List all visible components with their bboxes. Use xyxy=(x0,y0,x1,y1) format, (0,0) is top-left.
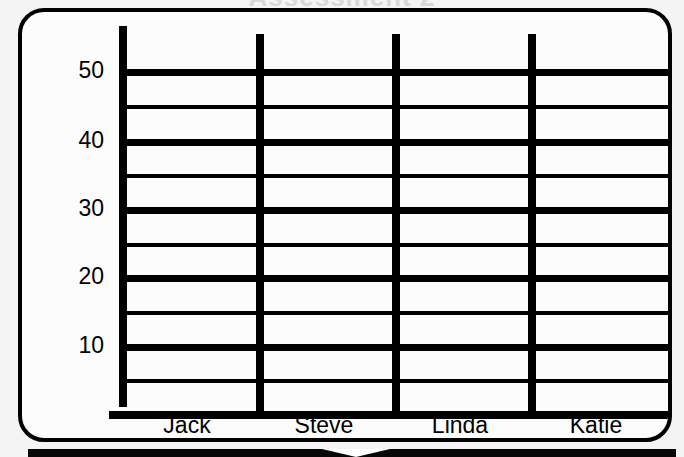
y-tick-label-10: 10 xyxy=(52,334,104,357)
y-tick-label-50: 50 xyxy=(52,59,104,82)
gridline-minor-25 xyxy=(119,243,672,247)
gridline-minor-5 xyxy=(119,379,672,383)
gridline-major-10 xyxy=(119,344,672,351)
chart-panel: 50 40 30 20 10 Jack Steve Linda Katie xyxy=(18,8,672,442)
gridline-minor-45 xyxy=(119,105,672,109)
bottom-edge-notch xyxy=(322,449,390,457)
vertical-gridline-3 xyxy=(528,34,536,415)
vertical-gridline-2 xyxy=(392,34,400,415)
gridline-major-40 xyxy=(119,139,672,146)
gridline-major-50 xyxy=(119,69,672,76)
gridline-minor-15 xyxy=(119,311,672,315)
vertical-gridline-4 xyxy=(669,34,672,415)
gridline-major-20 xyxy=(119,275,672,282)
gridline-major-30 xyxy=(119,207,672,214)
x-label-linda: Linda xyxy=(392,412,528,440)
x-label-jack: Jack xyxy=(119,412,255,440)
y-tick-label-30: 30 xyxy=(52,197,104,220)
gridline-minor-35 xyxy=(119,174,672,178)
plot-area xyxy=(119,42,672,407)
x-label-katie: Katie xyxy=(528,412,664,440)
x-label-steve: Steve xyxy=(256,412,392,440)
x-axis-labels: Jack Steve Linda Katie xyxy=(119,412,672,442)
y-tick-label-20: 20 xyxy=(52,265,104,288)
y-tick-label-40: 40 xyxy=(52,129,104,152)
vertical-gridline-1 xyxy=(256,34,264,415)
